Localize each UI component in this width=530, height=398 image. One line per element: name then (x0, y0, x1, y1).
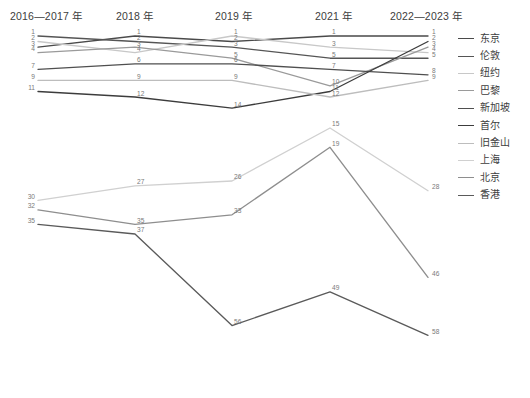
legend-line-icon (458, 177, 474, 178)
point-label: 35 (28, 217, 36, 224)
legend-item-5[interactable]: 首尔 (458, 117, 530, 134)
point-label: 2 (432, 34, 436, 41)
point-label: 5 (332, 51, 336, 58)
legend-line-icon (458, 195, 474, 196)
point-label: 33 (234, 207, 242, 214)
legend-item-2[interactable]: 纽约 (458, 65, 530, 82)
point-label: 27 (137, 178, 145, 185)
bump-chart: 3121112355241344351037667811121411299912… (0, 0, 530, 398)
legend-item-6[interactable]: 旧金山 (458, 134, 530, 151)
point-label: 26 (234, 173, 242, 180)
legend-line-icon (458, 160, 474, 161)
point-label: 6 (234, 56, 238, 63)
point-label: 7 (332, 62, 336, 69)
point-label: 12 (332, 90, 340, 97)
legend-line-icon (458, 38, 474, 39)
point-label: 4 (31, 45, 35, 52)
point-label: 19 (332, 140, 340, 147)
point-label: 28 (432, 183, 440, 190)
legend-item-label: 纽约 (480, 68, 500, 78)
point-label: 37 (137, 226, 145, 233)
point-label: 9 (234, 73, 238, 80)
point-label: 35 (137, 217, 145, 224)
chart-page: 2016—2017 年2018 年2019 年2021 年2022—2023 年… (0, 0, 530, 398)
legend-item-label: 新加坡 (480, 103, 510, 113)
point-label: 1 (332, 28, 336, 35)
point-label: 15 (332, 120, 340, 127)
legend-line-icon (458, 143, 474, 144)
point-label: 6 (137, 56, 141, 63)
series-line-2[interactable] (38, 36, 428, 53)
point-labels: 3121112355241344351037667811121411299912… (28, 28, 440, 334)
point-label: 3 (137, 40, 141, 47)
point-label: 9 (31, 73, 35, 80)
legend-item-label: 旧金山 (480, 138, 510, 148)
series-line-5[interactable] (38, 42, 428, 109)
series-line-8[interactable] (38, 147, 428, 277)
point-label: 56 (234, 318, 242, 325)
series-lines (38, 36, 428, 335)
point-label: 46 (432, 270, 440, 277)
legend-line-icon (458, 56, 474, 57)
legend-item-label: 巴黎 (480, 86, 500, 96)
legend-item-label: 东京 (480, 34, 500, 44)
series-line-9[interactable] (38, 224, 428, 335)
legend-line-icon (458, 73, 474, 74)
point-label: 32 (28, 202, 36, 209)
legend-item-7[interactable]: 上海 (458, 152, 530, 169)
legend-item-4[interactable]: 新加坡 (458, 100, 530, 117)
point-label: 9 (137, 73, 141, 80)
point-label: 2 (31, 34, 35, 41)
legend-item-label: 香港 (480, 190, 500, 200)
legend-item-8[interactable]: 北京 (458, 169, 530, 186)
legend-item-label: 北京 (480, 173, 500, 183)
legend: 东京伦敦纽约巴黎新加坡首尔旧金山上海北京香港 (458, 30, 530, 204)
point-label: 58 (432, 328, 440, 335)
point-label: 14 (234, 101, 242, 108)
point-label: 9 (432, 73, 436, 80)
legend-item-0[interactable]: 东京 (458, 30, 530, 47)
legend-line-icon (458, 125, 474, 126)
series-line-1[interactable] (38, 36, 428, 58)
legend-item-label: 伦敦 (480, 51, 500, 61)
legend-item-3[interactable]: 巴黎 (458, 82, 530, 99)
point-label: 11 (28, 84, 35, 91)
legend-item-label: 上海 (480, 155, 500, 165)
point-label: 3 (332, 40, 336, 47)
legend-line-icon (458, 90, 474, 91)
series-line-7[interactable] (38, 128, 428, 200)
point-label: 7 (31, 62, 35, 69)
point-label: 3 (234, 40, 238, 47)
point-label: 12 (137, 90, 145, 97)
series-line-0[interactable] (38, 36, 428, 47)
legend-line-icon (458, 108, 474, 109)
point-label: 49 (332, 284, 340, 291)
legend-item-1[interactable]: 伦敦 (458, 47, 530, 64)
point-label: 30 (28, 193, 36, 200)
point-label: 1 (234, 28, 238, 35)
series-line-4[interactable] (38, 64, 428, 75)
legend-item-label: 首尔 (480, 121, 500, 131)
legend-item-9[interactable]: 香港 (458, 187, 530, 204)
